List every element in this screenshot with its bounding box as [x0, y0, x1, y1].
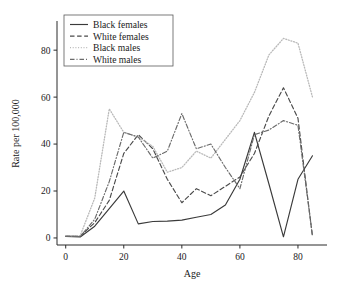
series-line-white-females — [66, 88, 313, 237]
series-line-white-males — [66, 114, 313, 237]
y-tick-label: 20 — [41, 186, 51, 196]
y-tick-label: 60 — [41, 93, 51, 103]
legend-label: Black females — [93, 19, 148, 30]
y-axis-title: Rate per 100,000 — [10, 99, 21, 168]
legend-label: White females — [93, 31, 149, 42]
x-tick-label: 40 — [177, 252, 187, 262]
y-tick-label: 40 — [41, 139, 51, 149]
legend-label: White males — [93, 54, 141, 65]
chart-legend: Black femalesWhite femalesBlack malesWhi… — [64, 15, 173, 66]
y-tick-label: 80 — [41, 46, 51, 56]
x-tick-label: 0 — [63, 252, 68, 262]
x-tick-label: 80 — [293, 252, 303, 262]
y-tick-label: 0 — [46, 233, 51, 243]
chart-figure: 020406080020406080AgeRate per 100,000 Bl… — [0, 0, 340, 304]
x-tick-label: 60 — [235, 252, 245, 262]
x-tick-label: 20 — [119, 252, 129, 262]
line-chart: 020406080020406080AgeRate per 100,000 Bl… — [0, 0, 340, 304]
series-layer — [66, 38, 313, 237]
x-axis-title: Age — [184, 268, 201, 279]
legend-label: Black males — [93, 42, 140, 53]
